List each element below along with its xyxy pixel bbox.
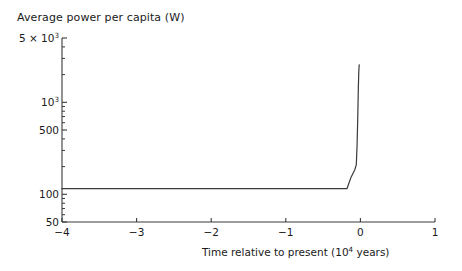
x-tick-label: −1 (278, 226, 293, 238)
axis-lines (62, 38, 435, 222)
x-tick-label: 1 (432, 226, 439, 238)
x-tick-label: −4 (54, 226, 69, 238)
x-tick-label: 0 (357, 226, 364, 238)
y-tick-label: 500 (39, 124, 59, 136)
x-tick-label: −2 (203, 226, 218, 238)
y-axis-ticks (62, 38, 67, 222)
y-tick-label: 103 (41, 96, 59, 108)
x-tick-label: −3 (129, 226, 144, 238)
data-series-group (62, 65, 359, 189)
x-axis-ticks (62, 218, 435, 222)
y-tick-label: 5 × 103 (19, 32, 59, 44)
y-tick-label: 100 (39, 188, 59, 200)
chart-figure: Average power per capita (W) Time relati… (0, 0, 462, 271)
data-line (62, 65, 359, 189)
